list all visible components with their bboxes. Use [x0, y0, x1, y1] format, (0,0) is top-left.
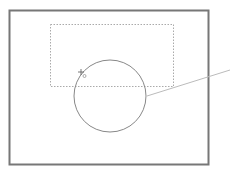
circle-shape[interactable] — [74, 60, 146, 132]
canvas-frame — [10, 11, 209, 165]
connector-line[interactable] — [147, 70, 230, 96]
selection-rectangle[interactable] — [51, 25, 174, 87]
drawing-canvas[interactable] — [0, 0, 230, 178]
